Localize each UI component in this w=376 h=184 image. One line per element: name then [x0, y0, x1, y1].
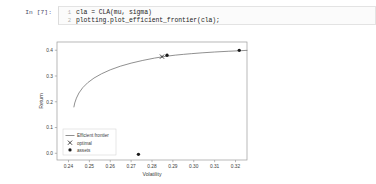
svg-text:0.26: 0.26: [106, 164, 116, 169]
svg-text:0.1: 0.1: [46, 125, 53, 130]
legend-item-label: Efficient frontier: [77, 133, 109, 138]
svg-text:0.2: 0.2: [46, 100, 53, 105]
notebook-cell-area: In [7]: 1 cla = CLA(mu, sigma) 2 plottin…: [0, 0, 376, 184]
code-line: 2 plotting.plot_efficient_frontier(cla);: [59, 17, 373, 25]
line-number: 2: [59, 17, 76, 24]
line-number: 1: [59, 9, 76, 16]
code-text: plotting.plot_efficient_frontier(cla);: [76, 17, 220, 25]
x-axis-ticks: 0.240.250.260.270.280.290.300.310.32: [64, 160, 241, 169]
code-cell[interactable]: In [7]: 1 cla = CLA(mu, sigma) 2 plottin…: [0, 6, 376, 30]
plot-canvas: 0.240.250.260.270.280.290.300.310.32 0.0…: [24, 32, 292, 182]
svg-text:0.29: 0.29: [168, 164, 178, 169]
svg-text:0.4: 0.4: [46, 48, 53, 53]
svg-text:0.30: 0.30: [189, 164, 199, 169]
code-line: 1 cla = CLA(mu, sigma): [59, 9, 373, 17]
code-text: cla = CLA(mu, sigma): [76, 9, 152, 17]
svg-text:0.0: 0.0: [46, 151, 53, 156]
svg-text:0.28: 0.28: [147, 164, 157, 169]
x-axis-label: Volatility: [142, 171, 161, 177]
chart-legend: Efficient frontieroptimalassets: [63, 129, 116, 155]
legend-item-label: optimal: [77, 141, 92, 146]
code-editor[interactable]: 1 cla = CLA(mu, sigma) 2 plotting.plot_e…: [58, 6, 376, 25]
svg-text:0.24: 0.24: [64, 164, 74, 169]
y-axis-label: Return: [38, 93, 44, 109]
execution-prompt: In [7]:: [0, 6, 58, 17]
svg-text:0.3: 0.3: [46, 74, 53, 79]
efficient-frontier-figure: 0.240.250.260.270.280.290.300.310.32 0.0…: [24, 32, 292, 182]
legend-item-label: assets: [77, 148, 91, 153]
svg-text:0.25: 0.25: [85, 164, 95, 169]
svg-text:0.27: 0.27: [126, 164, 136, 169]
y-axis-ticks: 0.00.10.20.30.4: [46, 48, 57, 156]
svg-text:0.31: 0.31: [210, 164, 220, 169]
svg-text:0.32: 0.32: [231, 164, 241, 169]
